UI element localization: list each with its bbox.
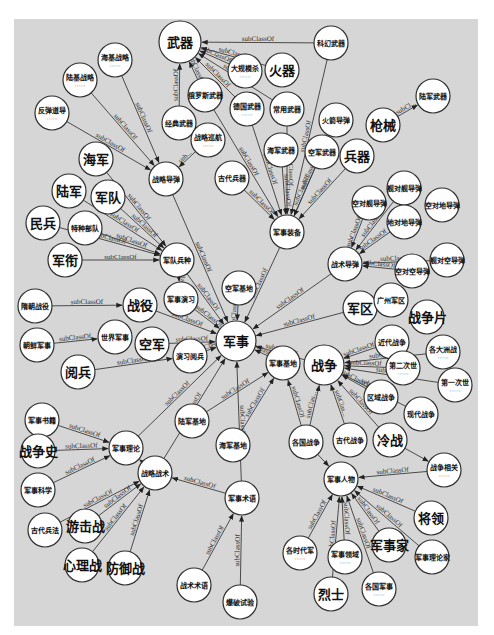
node-label: 第二次世 <box>389 361 417 370</box>
node-zhanzheng[interactable]: 战争 <box>304 345 344 385</box>
edge-label: subClassOf <box>172 68 180 101</box>
node-haijizl[interactable]: 海基战略······ <box>98 43 132 77</box>
node-youjizhan[interactable]: 游击战 <box>66 509 105 543</box>
node-label: 武器 <box>167 35 194 50</box>
node-lujunjd[interactable]: 陆军基地 <box>175 404 209 438</box>
node-junshirw[interactable]: 军事人物 <box>324 462 358 496</box>
node-shijiejs[interactable]: 世界军事 <box>98 320 132 354</box>
node-junqu[interactable]: 军区 <box>343 291 377 325</box>
node-junshililun[interactable]: 军事理论 <box>109 431 143 465</box>
node-ellipsis: ······ <box>294 555 306 562</box>
node-kongduidi[interactable]: 空对地导弹 <box>425 188 460 222</box>
node-zhanzhengshi[interactable]: 战争史 <box>19 434 59 468</box>
node-lujun[interactable]: 陆军 <box>52 174 86 208</box>
node-fangyuzhan[interactable]: 防御战 <box>106 551 145 585</box>
node-jundui[interactable]: 军队 <box>91 180 125 214</box>
node-qiangxie[interactable]: 枪械 <box>366 108 400 142</box>
node-zhanshudd[interactable]: 战术导弹 <box>328 247 362 281</box>
node-junshilingyu[interactable]: 军事领域······ <box>328 540 362 574</box>
node-dierci[interactable]: 第二次世······ <box>386 351 420 385</box>
node-jiandkong[interactable]: 舰对空导弹 <box>430 243 465 277</box>
node-label: 空军 <box>139 337 165 352</box>
node-label: 军区 <box>347 301 373 316</box>
node-junshishuyu[interactable]: 军事术语 <box>225 481 259 515</box>
node-gudaibf[interactable]: 古代兵法 <box>28 513 62 547</box>
node-zhanluezs[interactable]: 战略战术 <box>138 456 172 490</box>
node-junshiyx[interactable]: 军事演习 <box>164 282 198 316</box>
edge-label: subClassOf <box>342 502 352 535</box>
node-jingdian[interactable]: 经典武器 <box>162 106 196 140</box>
node-yuebing[interactable]: 阅兵 <box>61 355 95 389</box>
node-lujizl[interactable]: 陆基战略······ <box>63 63 97 97</box>
node-kongjiandui[interactable]: 空对舰导弹 <box>352 186 387 220</box>
node-baopo[interactable]: 爆破试验 <box>223 585 257 619</box>
node-eluosi[interactable]: 俄罗斯武器 <box>187 78 224 112</box>
node-tezhong[interactable]: 特种部队 <box>68 211 102 245</box>
node-geshidai[interactable]: 各时代军······ <box>283 536 317 570</box>
node-kongjunjd[interactable]: 空军基地 <box>222 271 256 305</box>
node-diyici[interactable]: 第一次世······ <box>438 368 472 402</box>
node-label: 军队 <box>95 190 122 205</box>
node-haijun[interactable]: 海军 <box>79 142 113 176</box>
node-suichao[interactable]: 隋朝战役 <box>18 289 52 323</box>
node-label: 冷战 <box>377 433 403 448</box>
node-lieshi[interactable]: 烈士 <box>314 577 348 611</box>
node-yanxi[interactable]: 演习阅兵 <box>173 339 207 373</box>
node-label: 爆破试验 <box>226 598 255 607</box>
node-diduidi[interactable]: 地对地导弹 <box>387 205 422 239</box>
edge-junshisj-junshililun: subClassOf <box>58 422 109 443</box>
node-chaoxian[interactable]: 朝鲜军事 <box>20 328 54 362</box>
node-haijunjd[interactable]: 海军基地 <box>216 428 250 462</box>
node-xinlizhan[interactable]: 心理战 <box>63 548 102 582</box>
node-deguo[interactable]: 德国武器······ <box>230 92 264 126</box>
node-kongjun[interactable]: 空军 <box>135 327 169 361</box>
node-luwq[interactable]: 陆军武器 <box>416 79 450 113</box>
node-junshizb[interactable]: 军事装备 <box>270 215 304 249</box>
node-huojian[interactable]: 火箭导弹 <box>319 103 353 137</box>
node-zhanzhengxg[interactable]: 战争相关······ <box>427 453 461 487</box>
node-geguojs[interactable]: 各国军事······ <box>362 572 396 606</box>
node-label: 舰对空导弹 <box>430 256 465 265</box>
node-zhanshushuyu[interactable]: 战术术语 <box>177 568 211 602</box>
node-guangzhou[interactable]: 广州军区 <box>374 283 408 317</box>
node-zhanluedd[interactable]: 战略导弹 <box>149 162 183 196</box>
node-huoqi[interactable]: 火器 <box>265 53 299 87</box>
node-dagui[interactable]: 大规模杀······ <box>228 54 262 88</box>
node-zhanzhengpian[interactable]: 战争片 <box>408 300 447 334</box>
node-junshijd[interactable]: 军事基地 <box>266 346 300 380</box>
node-zhanyi[interactable]: 战役 <box>123 288 157 322</box>
node-minbing[interactable]: 民兵 <box>26 206 60 240</box>
node-gudaibq[interactable]: 古代兵器 <box>215 161 249 195</box>
node-label: 反弹道导 <box>38 106 66 115</box>
edge-label: subCl... <box>394 99 417 117</box>
node-fandan[interactable]: 反弹道导······ <box>35 96 69 130</box>
node-kongjunwq[interactable]: 空军武器 <box>305 135 339 169</box>
node-lengzhan[interactable]: 冷战 <box>373 423 407 457</box>
edge-junshikx-junshililun: subClassOf <box>53 455 109 482</box>
node-jiangling[interactable]: 将领 <box>414 501 448 535</box>
node-gedazhou[interactable]: 各大洲战······ <box>426 335 460 369</box>
node-kehuan[interactable]: 科幻武器 <box>314 26 348 60</box>
node-junshi[interactable]: 军事 <box>216 321 256 361</box>
node-gudaizz[interactable]: 古代战争 <box>333 423 367 457</box>
node-zhanluexh[interactable]: 战略巡航······ <box>191 123 225 157</box>
node-kongdkong[interactable]: 空对空导弹 <box>395 254 430 288</box>
node-jiandui[interactable]: 舰对舰导弹 <box>387 171 422 205</box>
node-junduibz[interactable]: 军队兵种 <box>160 243 194 277</box>
node-xiandai[interactable]: 现代战争 <box>404 397 438 431</box>
edge-label: subClassOf <box>68 422 102 440</box>
edge-zhanzhengxg-junshirw: subClassOf <box>359 466 427 478</box>
node-changyong[interactable]: 常用武器 <box>270 92 304 126</box>
node-haijunwq[interactable]: 海军武器 <box>264 133 298 167</box>
node-label: 各时代军 <box>285 546 314 555</box>
node-quyu[interactable]: 区域战争 <box>364 380 398 414</box>
node-junshisj[interactable]: 军事书籍 <box>25 403 59 437</box>
node-junshikx[interactable]: 军事科学 <box>21 473 55 507</box>
node-wuqi[interactable]: 武器 <box>159 21 201 63</box>
node-bingqi[interactable]: 兵器 <box>340 139 374 173</box>
node-junxian[interactable]: 军衔 <box>48 243 82 277</box>
edge-line <box>318 454 329 466</box>
node-junshililunjia[interactable]: 军事理论家 <box>415 540 451 574</box>
node-geguo[interactable]: 各国战争 <box>289 425 323 459</box>
node-label: 第一次世 <box>441 378 469 387</box>
